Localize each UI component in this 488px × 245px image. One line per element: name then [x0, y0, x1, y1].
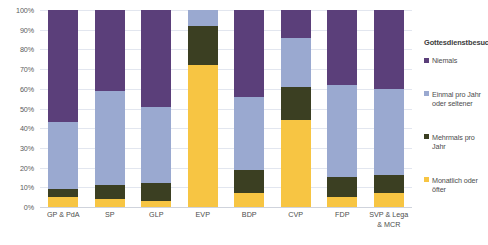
stacked-bar[interactable] — [374, 10, 404, 207]
x-axis-tick-label: FDP — [319, 210, 366, 229]
legend-items: NiemalsEinmal pro Jahr oder seltenerMehr… — [424, 56, 488, 195]
bar-segment[interactable] — [234, 10, 264, 97]
y-axis-tick-label: 10% — [20, 183, 34, 192]
bar-segment[interactable] — [48, 197, 78, 207]
y-axis-tick-label: 60% — [20, 84, 34, 93]
bar-group — [133, 10, 180, 207]
bars-container — [40, 10, 412, 207]
legend-item-label: Monatlich oder öfter — [432, 176, 488, 195]
stacked-bar[interactable] — [188, 10, 218, 207]
y-axis-tick-label: 100% — [16, 6, 34, 15]
bar-segment[interactable] — [327, 85, 357, 178]
legend-item[interactable]: Monatlich oder öfter — [424, 176, 488, 195]
legend-swatch-icon — [424, 134, 429, 139]
bar-group — [366, 10, 413, 207]
bar-segment[interactable] — [95, 199, 125, 207]
stacked-bar[interactable] — [327, 10, 357, 207]
bar-segment[interactable] — [95, 10, 125, 91]
y-axis-tick-label: 20% — [20, 163, 34, 172]
stacked-bar[interactable] — [281, 10, 311, 207]
chart-plot-wrapper: 100%90%80%70%60%50%40%30%20%10%0% GP & P… — [0, 0, 418, 245]
x-axis-tick-label: CVP — [273, 210, 320, 229]
bar-segment[interactable] — [234, 170, 264, 194]
bar-segment[interactable] — [141, 201, 171, 207]
bar-segment[interactable] — [188, 26, 218, 65]
x-axis-tick-label: SVP & Lega & MCR — [366, 210, 413, 229]
legend-item[interactable]: Einmal pro Jahr oder seltener — [424, 90, 488, 109]
bar-segment[interactable] — [327, 197, 357, 207]
bar-segment[interactable] — [141, 10, 171, 107]
bar-segment[interactable] — [281, 38, 311, 87]
legend-item-label: Einmal pro Jahr oder seltener — [432, 90, 488, 109]
legend-item-label: Niemals — [432, 56, 457, 66]
y-axis-tick-label: 30% — [20, 143, 34, 152]
y-axis-tick-label: 50% — [20, 104, 34, 113]
bar-segment[interactable] — [48, 189, 78, 197]
bar-segment[interactable] — [188, 10, 218, 26]
x-axis-tick-label: EVP — [180, 210, 227, 229]
x-axis: GP & PdASPGLPEVPBDPCVPFDPSVP & Lega & MC… — [40, 210, 412, 229]
y-axis-tick-label: 90% — [20, 25, 34, 34]
stacked-bar[interactable] — [95, 10, 125, 207]
bar-segment[interactable] — [48, 122, 78, 189]
stacked-bar[interactable] — [141, 10, 171, 207]
bar-segment[interactable] — [374, 89, 404, 176]
x-axis-tick-label: BDP — [226, 210, 273, 229]
bar-segment[interactable] — [188, 65, 218, 207]
legend-swatch-icon — [424, 58, 429, 63]
legend-item-label: Mehrmals pro Jahr — [432, 133, 488, 152]
y-axis-tick-label: 40% — [20, 124, 34, 133]
legend-item[interactable]: Niemals — [424, 56, 488, 66]
bar-segment[interactable] — [374, 175, 404, 193]
legend: Gottesdienstbesuch NiemalsEinmal pro Jah… — [424, 38, 488, 219]
x-axis-tick-label: GLP — [133, 210, 180, 229]
axis-baseline — [40, 207, 412, 208]
bar-group — [40, 10, 87, 207]
y-axis-tick-label: 80% — [20, 45, 34, 54]
y-axis: 100%90%80%70%60%50%40%30%20%10%0% — [0, 10, 37, 207]
bar-segment[interactable] — [141, 107, 171, 184]
bar-segment[interactable] — [281, 10, 311, 38]
chart-screenshot: 100%90%80%70%60%50%40%30%20%10%0% GP & P… — [0, 0, 488, 245]
bar-segment[interactable] — [281, 120, 311, 207]
bar-segment[interactable] — [327, 177, 357, 197]
bar-segment[interactable] — [374, 10, 404, 89]
y-axis-tick-label: 0% — [24, 203, 34, 212]
bar-segment[interactable] — [327, 10, 357, 85]
x-axis-tick-label: SP — [87, 210, 134, 229]
bar-segment[interactable] — [234, 97, 264, 170]
legend-swatch-icon — [424, 91, 429, 96]
bar-segment[interactable] — [281, 87, 311, 120]
bar-segment[interactable] — [234, 193, 264, 207]
bar-group — [226, 10, 273, 207]
bar-segment[interactable] — [95, 91, 125, 186]
x-axis-tick-label: GP & PdA — [40, 210, 87, 229]
bar-segment[interactable] — [48, 10, 78, 122]
legend-title: Gottesdienstbesuch — [424, 38, 488, 47]
bar-segment[interactable] — [141, 183, 171, 201]
bar-segment[interactable] — [374, 193, 404, 207]
bar-group — [87, 10, 134, 207]
bar-group — [180, 10, 227, 207]
legend-item[interactable]: Mehrmals pro Jahr — [424, 133, 488, 152]
bar-segment[interactable] — [95, 185, 125, 199]
bar-group — [319, 10, 366, 207]
stacked-bar[interactable] — [234, 10, 264, 207]
bar-group — [273, 10, 320, 207]
y-axis-tick-label: 70% — [20, 65, 34, 74]
legend-swatch-icon — [424, 177, 429, 182]
stacked-bar[interactable] — [48, 10, 78, 207]
